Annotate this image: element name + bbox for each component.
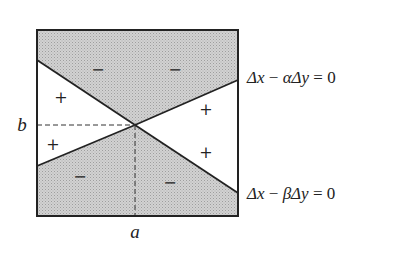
region-bottom-shaded [37, 125, 238, 216]
label-a: a [130, 221, 140, 242]
label-b: b [17, 114, 27, 135]
sign-left-upper: + [54, 88, 67, 107]
sign-left-lower: + [46, 135, 59, 154]
equation-alpha: Δx − αΔy = 0 [246, 68, 336, 87]
sign-bottom-right: − [163, 173, 176, 192]
sign-top-right: − [168, 60, 181, 79]
sign-right-upper: + [199, 100, 212, 119]
sign-right-lower: + [199, 143, 212, 162]
equation-beta: Δx − βΔy = 0 [246, 184, 335, 203]
sign-bottom-left: − [73, 167, 86, 186]
sign-top-left: − [91, 60, 104, 79]
sign-region-diagram: − − + + + + − − b a Δx − αΔy = 0 Δx − βΔ… [0, 0, 400, 258]
